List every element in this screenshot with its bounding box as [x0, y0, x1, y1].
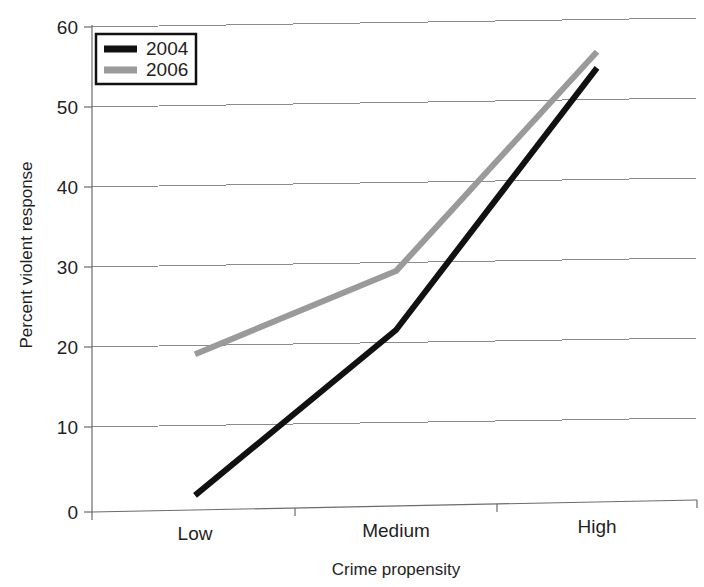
y-tick-labels: 60 50 40 30 20 10 0: [57, 17, 78, 523]
x-axis-line: [92, 500, 697, 512]
line-chart: 60 50 40 30 20 10 0 Low Medium High Perc…: [0, 0, 704, 587]
legend-label-2004: 2004: [146, 38, 189, 59]
x-tick-label-high: High: [577, 516, 616, 537]
gridline-40: [92, 178, 697, 187]
legend-label-2006: 2006: [146, 59, 188, 80]
x-axis-title: Crime propensity: [332, 560, 461, 579]
y-tick-label-40: 40: [57, 177, 78, 198]
series-line-2004: [195, 68, 597, 496]
gridline-50: [92, 98, 697, 107]
y-tick-label-0: 0: [67, 502, 78, 523]
y-tick-label-60: 60: [57, 17, 78, 38]
series-line-2006: [195, 52, 597, 355]
x-tick-label-medium: Medium: [362, 520, 430, 541]
gridline-30: [92, 258, 697, 267]
legend: 2004 2006: [96, 34, 196, 84]
y-tick-label-10: 10: [57, 417, 78, 438]
y-tick-label-50: 50: [57, 97, 78, 118]
gridline-10: [92, 418, 697, 427]
gridline-60: [92, 18, 697, 27]
y-axis-title: Percent violent response: [17, 161, 36, 348]
x-tick-label-low: Low: [178, 523, 213, 544]
y-tick-marks: [84, 27, 92, 512]
y-tick-label-20: 20: [57, 337, 78, 358]
y-tick-label-30: 30: [57, 257, 78, 278]
gridline-20: [92, 338, 697, 347]
x-tick-labels: Low Medium High: [178, 516, 617, 544]
